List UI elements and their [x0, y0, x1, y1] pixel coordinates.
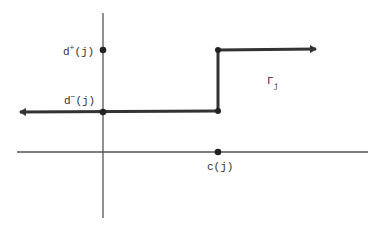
c-label: c(j) — [207, 161, 233, 173]
upper-level-line — [218, 49, 316, 50]
d-minus-label: d−(j) — [64, 92, 95, 107]
c-point — [215, 149, 222, 156]
step-top-point — [215, 47, 221, 53]
gamma-label: Γj — [267, 75, 278, 90]
step-function-diagram: d+(j) d−(j) c(j) Γj — [0, 0, 380, 230]
d-plus-label: d+(j) — [63, 43, 94, 58]
step-bottom-point — [215, 108, 221, 114]
d-minus-point — [100, 109, 107, 116]
d-plus-point — [100, 47, 107, 54]
lower-level-line — [20, 111, 218, 112]
